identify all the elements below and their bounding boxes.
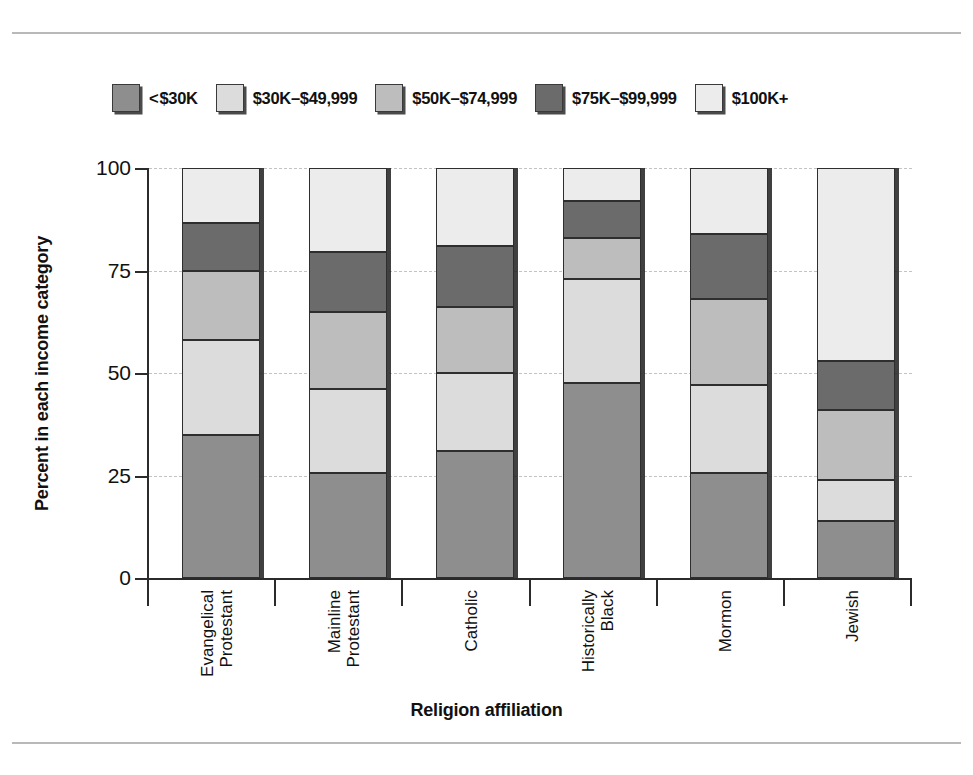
- legend-swatch-icon: [535, 84, 563, 112]
- legend-item: $100K+: [695, 84, 788, 112]
- gridline: [149, 476, 912, 477]
- bar-segment: [817, 521, 895, 578]
- legend-item: < $30K: [112, 84, 198, 112]
- x-tick-mark: [910, 580, 912, 606]
- bar-segment: [309, 168, 387, 252]
- y-tick-mark: [135, 271, 149, 273]
- y-tick-mark: [135, 373, 149, 375]
- bar-segment: [563, 238, 641, 279]
- stacked-bar: [563, 168, 641, 578]
- legend-item: $75K–$99,999: [535, 84, 677, 112]
- legend-swatch-icon: [375, 84, 403, 112]
- x-tick-label-text: Mormon: [716, 590, 735, 652]
- legend-label: < $30K: [149, 89, 198, 108]
- x-tick-mark: [656, 580, 658, 606]
- bar-segment: [817, 168, 895, 361]
- stacked-bar: [690, 168, 768, 578]
- bar-segment: [182, 435, 260, 579]
- x-tick-label: Jewish: [792, 590, 912, 740]
- gridline: [149, 373, 912, 374]
- x-tick-mark: [783, 580, 785, 606]
- bar-segment: [436, 373, 514, 451]
- bar-segment: [690, 299, 768, 385]
- chart-legend: < $30K$30K–$49,999$50K–$74,999$75K–$99,9…: [112, 78, 902, 118]
- gridline: [149, 271, 912, 272]
- legend-item: $50K–$74,999: [375, 84, 517, 112]
- x-tick-label: Mainline Protestant: [284, 590, 404, 740]
- x-tick-label-text: Evangelical Protestant: [198, 590, 236, 677]
- top-divider-rule: [12, 32, 961, 34]
- x-tick-mark: [401, 580, 403, 606]
- bar-segment: [309, 389, 387, 473]
- bar-segment: [309, 252, 387, 311]
- x-tick-label-text: Catholic: [461, 590, 480, 651]
- bar-segment: [690, 473, 768, 578]
- legend-item: $30K–$49,999: [216, 84, 358, 112]
- legend-label: $100K+: [732, 89, 788, 108]
- plot-area: 0255075100: [147, 168, 912, 578]
- bar-segment: [182, 168, 260, 223]
- legend-swatch-icon: [112, 84, 140, 112]
- y-tick-mark: [135, 476, 149, 478]
- x-tick-mark: [529, 580, 531, 606]
- bar-segment: [690, 168, 768, 234]
- stacked-bar: [436, 168, 514, 578]
- x-tick-mark: [147, 580, 149, 606]
- bar-segment: [690, 385, 768, 473]
- bar-segment: [436, 168, 514, 246]
- bar-segment: [817, 410, 895, 480]
- x-tick-label: Catholic: [411, 590, 531, 740]
- bottom-divider-rule: [12, 742, 961, 744]
- bar-segment: [817, 480, 895, 521]
- y-tick-label: 50: [108, 361, 131, 385]
- figure-container: < $30K$30K–$49,999$50K–$74,999$75K–$99,9…: [0, 0, 973, 775]
- legend-label: $75K–$99,999: [572, 89, 677, 108]
- bar-segment: [563, 168, 641, 201]
- y-tick-label: 100: [96, 156, 131, 180]
- legend-swatch-icon: [216, 84, 244, 112]
- gridline: [149, 168, 912, 169]
- x-tick-label: Evangelical Protestant: [157, 590, 277, 740]
- y-tick-label: 25: [108, 464, 131, 488]
- bar-segment: [563, 383, 641, 578]
- x-tick-label-text: Mainline Protestant: [325, 590, 363, 668]
- y-tick-label: 75: [108, 259, 131, 283]
- y-axis-title-text: Percent in each income category: [32, 236, 53, 511]
- bar-segment: [436, 307, 514, 373]
- bar-segment: [309, 473, 387, 578]
- bar-segment: [563, 201, 641, 238]
- bar-segment: [436, 246, 514, 308]
- bar-segment: [436, 451, 514, 578]
- bar-segment: [182, 271, 260, 341]
- x-tick-label-text: Historically Black: [579, 590, 617, 672]
- bar-segment: [690, 234, 768, 300]
- x-tick-label: Mormon: [665, 590, 785, 740]
- stacked-bar: [309, 168, 387, 578]
- x-tick-mark: [274, 580, 276, 606]
- stacked-bar: [182, 168, 260, 578]
- y-tick-label: 0: [119, 566, 131, 590]
- x-tick-label: Historically Black: [538, 590, 658, 740]
- bar-segment: [182, 223, 260, 270]
- bar-segment: [182, 340, 260, 434]
- legend-label: $50K–$74,999: [412, 89, 517, 108]
- bar-segment: [817, 361, 895, 410]
- stacked-bar: [817, 168, 895, 578]
- y-axis-title: Percent in each income category: [30, 168, 54, 578]
- bar-segment: [563, 279, 641, 384]
- bar-segment: [309, 312, 387, 390]
- legend-label: $30K–$49,999: [253, 89, 358, 108]
- y-tick-mark: [135, 168, 149, 170]
- x-tick-label-text: Jewish: [843, 590, 862, 642]
- legend-swatch-icon: [695, 84, 723, 112]
